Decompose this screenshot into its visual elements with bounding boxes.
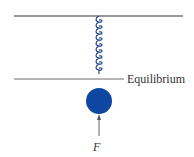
equilibrium-label: Equilibrium — [127, 72, 185, 87]
spring-icon — [96, 16, 102, 74]
force-arrow-head-icon — [97, 114, 101, 120]
mass-ball — [86, 88, 112, 114]
force-label: F — [93, 140, 100, 155]
